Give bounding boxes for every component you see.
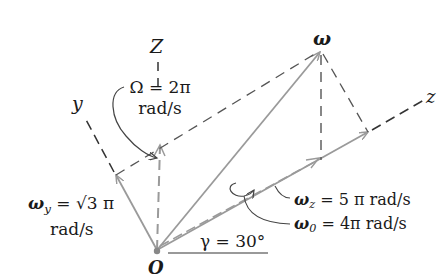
omega-0-value: = 4π rad/s [316, 214, 406, 233]
omega-0-spin-arrow [230, 183, 254, 196]
z-axis-label: z [426, 88, 435, 106]
origin-point [154, 248, 160, 254]
omega-label: ω [313, 29, 331, 48]
gamma-angle-label: γ = 30° [200, 233, 265, 250]
omega-z-value: = 5 π rad/s [315, 190, 410, 209]
origin-label: O [148, 259, 164, 277]
omega-y-vector [116, 175, 157, 250]
Z-axis-label: Z [150, 37, 163, 56]
omega-y-subscript: y [44, 202, 51, 216]
Omega-vector [157, 146, 160, 250]
z-axis [372, 100, 424, 130]
omega-y-unit: rad/s [50, 221, 114, 238]
y-axis-label: y [72, 94, 83, 113]
construction-omega-to-z [323, 54, 368, 132]
omega-0-leader [244, 196, 290, 224]
omega-y-value: = √3 π [51, 193, 114, 213]
omega-0-symbol: ω [294, 214, 309, 233]
y-axis [84, 116, 114, 172]
omega-y-symbol: ω [28, 193, 44, 213]
omega-z-label: ωz = 5 π rad/s [294, 192, 411, 211]
omega-z-symbol: ω [294, 190, 309, 209]
omega-y-label: ωy = √3 π rad/s [28, 195, 114, 238]
Omega-unit: rad/s [125, 100, 195, 117]
omega-0-label: ω0 = 4π rad/s [294, 216, 407, 235]
vector-diagram: Z y z O ω Ω = 2π rad/s ωy = √3 π rad/s ω… [0, 0, 438, 279]
Omega-value: Ω = 2π [125, 79, 195, 96]
omega-z-leader [275, 186, 290, 198]
Omega-label: Ω = 2π rad/s [125, 79, 195, 117]
